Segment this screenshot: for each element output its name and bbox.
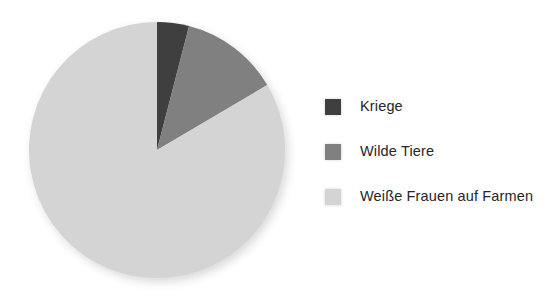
legend-swatch-weisse-frauen-auf-farmen <box>325 189 341 205</box>
legend-label-weisse-frauen-auf-farmen: Weiße Frauen auf Farmen <box>360 189 533 204</box>
legend-swatch-kriege <box>325 99 341 115</box>
pie-chart-graphic <box>29 22 285 278</box>
legend-item-weisse-frauen-auf-farmen[interactable]: Weiße Frauen auf Farmen <box>325 174 545 219</box>
legend-label-wilde-tiere: Wilde Tiere <box>360 144 434 159</box>
pie-chart-figure: Kriege Wilde Tiere Weiße Frauen auf Farm… <box>0 0 560 301</box>
pie-slices-svg <box>29 22 285 278</box>
legend-swatch-wilde-tiere <box>325 144 341 160</box>
legend: Kriege Wilde Tiere Weiße Frauen auf Farm… <box>325 84 545 219</box>
legend-item-kriege[interactable]: Kriege <box>325 84 545 129</box>
legend-label-kriege: Kriege <box>360 99 403 114</box>
legend-item-wilde-tiere[interactable]: Wilde Tiere <box>325 129 545 174</box>
